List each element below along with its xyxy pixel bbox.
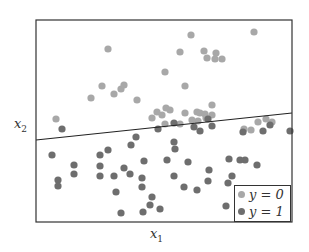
point-y0 — [87, 94, 94, 101]
point-y1 — [112, 188, 119, 195]
point-y1 — [205, 166, 212, 173]
legend-label-y0: y = 0 — [249, 187, 284, 202]
point-y1 — [170, 138, 177, 145]
y-axis-label-sub: 2 — [21, 124, 27, 134]
point-y0 — [218, 55, 225, 62]
point-y0 — [104, 45, 111, 52]
point-y0 — [181, 109, 188, 116]
point-y1 — [127, 141, 134, 148]
point-y1 — [139, 208, 146, 215]
point-y1 — [70, 170, 77, 177]
point-y0 — [211, 55, 218, 62]
point-y1 — [138, 183, 145, 190]
point-y1 — [117, 209, 124, 216]
point-y0 — [98, 82, 105, 89]
point-y1 — [259, 127, 266, 134]
point-y1 — [96, 162, 103, 169]
point-y1 — [163, 156, 170, 163]
point-y1 — [228, 172, 235, 179]
point-y1 — [180, 183, 187, 190]
point-y1 — [120, 164, 127, 171]
point-y1 — [140, 157, 147, 164]
point-y0 — [162, 104, 169, 111]
point-y1 — [193, 186, 200, 193]
point-y1 — [146, 201, 153, 208]
point-y1 — [126, 170, 133, 177]
point-y0 — [188, 116, 195, 123]
point-y1 — [96, 172, 103, 179]
point-y1 — [222, 202, 229, 209]
point-y0 — [176, 48, 183, 55]
legend-item-y0: y = 0 — [235, 186, 290, 203]
point-y1 — [266, 121, 273, 128]
point-y1 — [208, 122, 215, 129]
point-y1 — [132, 133, 139, 140]
point-y1 — [48, 151, 55, 158]
point-y1 — [54, 182, 61, 189]
point-y1 — [184, 158, 191, 165]
point-y1 — [224, 179, 231, 186]
point-y0 — [161, 68, 168, 75]
point-y1 — [204, 177, 211, 184]
point-y1 — [196, 127, 203, 134]
point-y0 — [187, 31, 194, 38]
point-y1 — [156, 205, 163, 212]
legend: y = 0 y = 1 — [234, 185, 291, 222]
legend-item-y1: y = 1 — [235, 203, 290, 220]
point-y1 — [170, 172, 177, 179]
x-axis-label-sub: 1 — [157, 234, 163, 244]
point-y0 — [212, 49, 219, 56]
point-y1 — [70, 161, 77, 168]
point-y1 — [253, 161, 260, 168]
point-y1 — [96, 151, 103, 158]
point-y0 — [148, 114, 155, 121]
point-y0 — [203, 54, 210, 61]
point-y0 — [133, 96, 140, 103]
point-y0 — [52, 115, 59, 122]
point-y0 — [208, 101, 215, 108]
point-y1 — [190, 123, 197, 130]
legend-label-y1: y = 1 — [249, 204, 284, 219]
point-y1 — [171, 145, 178, 152]
point-y0 — [200, 47, 207, 54]
point-y1 — [236, 156, 243, 163]
point-y0 — [110, 90, 117, 97]
point-y1 — [110, 172, 117, 179]
x-axis-label: x1 — [150, 226, 163, 244]
point-y1 — [104, 146, 111, 153]
legend-marker-y1-icon — [238, 208, 245, 215]
point-y1 — [138, 174, 145, 181]
legend-marker-y0-icon — [238, 191, 245, 198]
point-y0 — [250, 28, 257, 35]
point-y1 — [148, 193, 155, 200]
point-y0 — [158, 111, 165, 118]
point-y1 — [239, 128, 246, 135]
point-y0 — [247, 126, 254, 133]
point-y1 — [225, 155, 232, 162]
point-y1 — [58, 125, 65, 132]
point-y0 — [120, 81, 127, 88]
point-y0 — [254, 118, 261, 125]
point-y0 — [181, 82, 188, 89]
y-axis-label: x2 — [14, 116, 27, 134]
